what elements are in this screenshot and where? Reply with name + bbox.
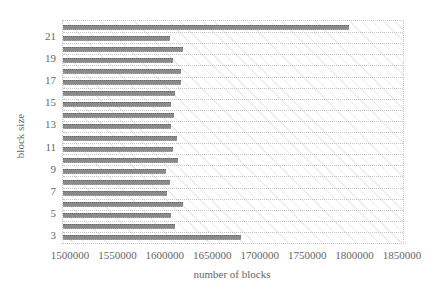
- x-tick-label: 1800000: [335, 249, 374, 261]
- x-tick-label: 1600000: [146, 249, 185, 261]
- y-tick-label: 7: [36, 185, 56, 197]
- bar-block-size-9: [63, 169, 166, 174]
- bar-block-size-14: [63, 113, 174, 118]
- y-tick-label: 21: [36, 30, 56, 42]
- bar-block-size-13: [63, 124, 171, 129]
- gridline: [63, 232, 403, 233]
- x-axis-title: number of blocks: [194, 268, 271, 280]
- x-tick-label: 1500000: [51, 249, 90, 261]
- gridline: [63, 221, 403, 222]
- bar-block-size-16: [63, 91, 175, 96]
- bar-block-size-21: [63, 36, 170, 41]
- y-tick-label: 17: [36, 74, 56, 86]
- bar-block-size-4: [63, 224, 175, 229]
- y-tick-label: 11: [36, 141, 56, 153]
- gridline: [63, 110, 403, 111]
- gridline: [63, 65, 403, 66]
- gridline: [63, 199, 403, 200]
- x-tick-label: 1750000: [288, 249, 327, 261]
- gridline: [63, 132, 403, 133]
- gridline: [63, 121, 403, 122]
- plot-area: [62, 20, 404, 244]
- gridline: [63, 210, 403, 211]
- bar-block-size-7: [63, 191, 167, 196]
- bar-block-size-8: [63, 180, 170, 185]
- x-tick-label: 1550000: [98, 249, 137, 261]
- y-tick-label: 13: [36, 118, 56, 130]
- gridline: [63, 143, 403, 144]
- bar-block-size-6: [63, 202, 183, 207]
- bar-block-size-19: [63, 58, 173, 63]
- x-tick-label: 1650000: [193, 249, 232, 261]
- gridline: [63, 54, 403, 55]
- gridline: [63, 165, 403, 166]
- gridline: [63, 154, 403, 155]
- bar-block-size-3: [63, 235, 241, 240]
- bar-block-size-15: [63, 102, 171, 107]
- bar-block-size-10: [63, 158, 178, 163]
- y-axis-title: block size: [14, 114, 26, 158]
- gridline: [63, 188, 403, 189]
- bar-block-size-17: [63, 80, 181, 85]
- bar-block-size-12: [63, 136, 177, 141]
- bar-block-size-11: [63, 147, 173, 152]
- y-tick-label: 15: [36, 96, 56, 108]
- gridline: [63, 32, 403, 33]
- gridline: [63, 99, 403, 100]
- y-tick-label: 19: [36, 52, 56, 64]
- x-tick-label: 1850000: [383, 249, 422, 261]
- y-tick-label: 5: [36, 207, 56, 219]
- gridline: [63, 77, 403, 78]
- y-tick-label: 3: [36, 229, 56, 241]
- bar-block-size-5: [63, 213, 171, 218]
- bar-block-size-20: [63, 47, 183, 52]
- bar-block-size-22: [63, 25, 349, 30]
- bar-block-size-18: [63, 69, 181, 74]
- gridline: [63, 176, 403, 177]
- x-tick-label: 1700000: [240, 249, 279, 261]
- gridline: [63, 88, 403, 89]
- gridline: [63, 43, 403, 44]
- y-tick-label: 9: [36, 163, 56, 175]
